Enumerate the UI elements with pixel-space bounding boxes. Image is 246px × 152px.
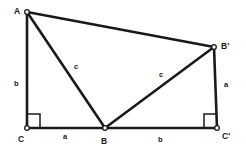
side-label-a-bottom: a <box>63 133 67 141</box>
edge-A-B <box>27 12 105 128</box>
geometric-diagram: AB'CBC' bccaab <box>0 0 246 152</box>
right-angle-at-Cprime <box>204 114 217 127</box>
vertex-marker-cprime <box>215 126 220 131</box>
vertex-markers-group <box>25 10 220 131</box>
vertex-marker-bprime <box>212 45 217 50</box>
figure-canvas <box>0 0 246 152</box>
side-label-a-right: a <box>224 81 228 89</box>
vertex-marker-a <box>25 10 30 15</box>
vertex-label-cprime: C' <box>222 132 230 141</box>
side-label-b-left: b <box>14 80 19 88</box>
side-label-b-bottom: b <box>158 136 163 144</box>
vertex-marker-b <box>103 126 108 131</box>
vertex-label-bprime: B' <box>221 42 229 51</box>
right-angle-at-C <box>27 114 40 127</box>
side-label-c-left: c <box>74 63 78 71</box>
edges-group <box>27 12 217 128</box>
vertex-label-c: C <box>18 135 24 144</box>
edge-A-Bprime <box>27 12 214 47</box>
vertex-label-a: A <box>14 7 20 16</box>
vertex-marker-c <box>25 126 30 131</box>
vertex-label-b: B <box>101 137 107 146</box>
edge-Bprime-Cprime <box>214 47 217 128</box>
edge-B-Bprime <box>105 47 214 128</box>
side-label-c-right: c <box>159 71 163 79</box>
